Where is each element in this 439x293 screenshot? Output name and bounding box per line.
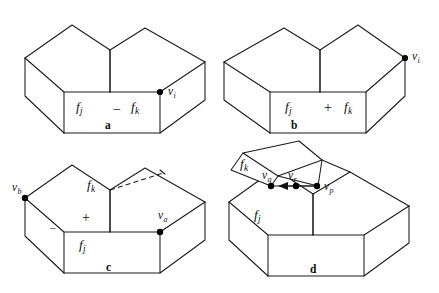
panel-b-solid [224, 25, 408, 133]
face-label-fk-a: fk [131, 100, 139, 114]
vertex-label-vi-b: vi [412, 51, 419, 63]
vertex-dot-vb [22, 195, 28, 201]
vertex-label-vp: vp [324, 181, 333, 193]
panel-letter-d: d [310, 264, 316, 276]
vertex-label-va: va [158, 210, 167, 222]
face-label-fk-b: fk [344, 100, 352, 114]
vertex-dot-va [157, 229, 163, 235]
vertex-dot-vi-a [157, 89, 163, 95]
face-label-fj-a: fj [76, 100, 82, 114]
panel-letter-a: a [105, 120, 111, 132]
panel-letter-c: c [106, 262, 111, 274]
vertex-label-vr: vr [288, 170, 296, 182]
panel-c-solid [22, 165, 205, 273]
face-label-fk-d: fk [240, 157, 248, 171]
vertex-label-vi-a: vi [168, 86, 175, 98]
vertex-label-vq: vq [262, 170, 271, 182]
vertex-dot-vp [314, 183, 320, 189]
sign-plus-c: + [82, 211, 90, 225]
vertex-label-vb: vb [12, 182, 21, 194]
sign-minus-c: – [50, 222, 56, 233]
sign-minus-a: − [113, 103, 121, 117]
face-label-fj-d: fj [254, 208, 260, 222]
face-label-fk-c: fk [87, 178, 95, 192]
sign-plus-b: + [324, 101, 332, 115]
figure-canvas: fj − fk vi a fj + fk vi b fk + fj – vb v… [0, 0, 439, 293]
face-label-fj-b: fj [285, 100, 291, 114]
face-label-fj-c: fj [79, 238, 85, 252]
vertex-dot-vi-b [402, 55, 408, 61]
panel-letter-b: b [291, 120, 297, 132]
line-drawing-svg [0, 0, 439, 293]
